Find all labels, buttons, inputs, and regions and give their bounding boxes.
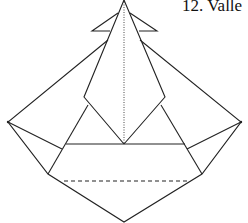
origami-diagram xyxy=(0,0,248,223)
left-inner-diagonal xyxy=(48,105,88,174)
arrow-body-right xyxy=(124,0,165,144)
right-inner-diagonal xyxy=(161,105,202,174)
right-side-crease xyxy=(187,122,241,149)
left-side-crease xyxy=(8,122,62,149)
right-spike xyxy=(130,13,157,31)
left-point xyxy=(7,121,9,123)
left-spike xyxy=(92,13,118,31)
right-point xyxy=(240,121,242,123)
arrow-body-left xyxy=(84,0,124,144)
left-wing-edge xyxy=(8,40,241,222)
